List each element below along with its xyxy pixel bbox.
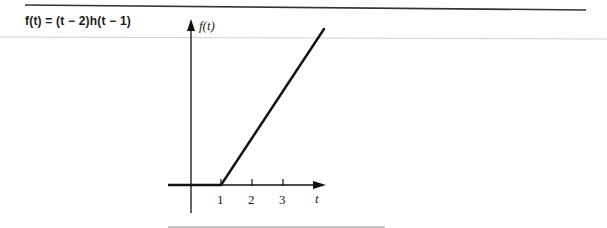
x-axis-arrow-icon xyxy=(313,181,326,189)
tick-label-1: 1 xyxy=(217,192,224,207)
tick-label-3: 3 xyxy=(279,192,286,207)
top-rule xyxy=(25,5,586,10)
y-axis-arrow-icon xyxy=(187,19,195,31)
y-axis-label: f(t) xyxy=(199,18,215,33)
x-axis-label: t xyxy=(315,191,319,206)
tick-label-2: 2 xyxy=(248,192,255,207)
plot-canvas: f(t) 1 2 3 t xyxy=(0,0,607,228)
ramp-segment xyxy=(221,29,324,185)
header-separator xyxy=(0,37,607,39)
